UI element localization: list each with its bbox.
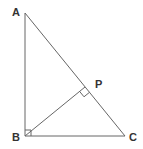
segment-ac bbox=[25, 13, 125, 136]
label-p: P bbox=[95, 78, 102, 90]
label-a: A bbox=[12, 6, 20, 18]
label-c: C bbox=[129, 131, 137, 143]
segment-bp bbox=[25, 87, 85, 136]
label-b: B bbox=[12, 131, 20, 143]
triangle-diagram bbox=[0, 0, 143, 149]
right-angle-marker-p bbox=[80, 91, 90, 96]
